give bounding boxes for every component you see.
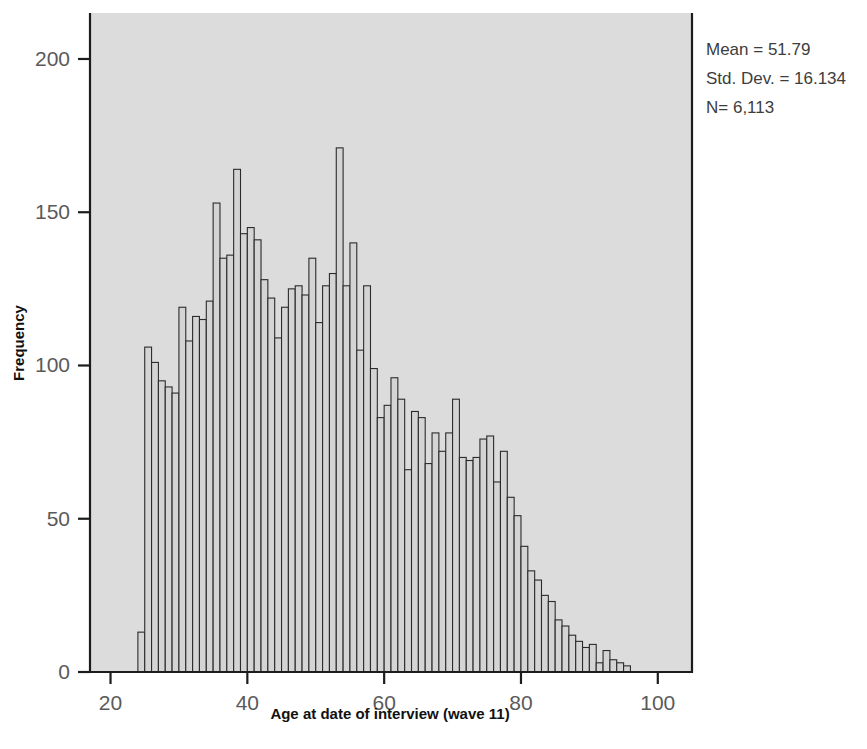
x-tick-label: 20 xyxy=(99,691,122,714)
histogram-bar xyxy=(610,660,617,672)
std-dev-label: Std. Dev. = 16.134 xyxy=(706,69,846,88)
histogram-bar xyxy=(535,580,542,672)
histogram-bar xyxy=(480,439,487,672)
histogram-bar xyxy=(138,632,145,672)
histogram-bar xyxy=(583,647,590,672)
histogram-bar xyxy=(418,418,425,672)
x-tick-label: 100 xyxy=(640,691,675,714)
y-tick-label: 200 xyxy=(35,47,70,70)
histogram-bar xyxy=(254,240,261,672)
histogram-bar xyxy=(213,203,220,672)
histogram-bar xyxy=(603,651,610,672)
histogram-bar xyxy=(473,457,480,672)
histogram-bar xyxy=(528,571,535,672)
histogram-bar xyxy=(350,243,357,672)
y-tick-label: 100 xyxy=(35,353,70,376)
histogram-bar xyxy=(268,298,275,672)
y-tick-label: 150 xyxy=(35,200,70,223)
histogram-bar xyxy=(186,341,193,672)
histogram-bar xyxy=(302,295,309,672)
histogram-bar xyxy=(576,641,583,672)
histogram-bar xyxy=(309,258,316,672)
histogram-bar xyxy=(316,323,323,672)
histogram-bar xyxy=(569,635,576,672)
histogram-bar xyxy=(446,433,453,672)
histogram-bar xyxy=(589,644,596,672)
histogram-bar xyxy=(398,399,405,672)
x-tick-label: 40 xyxy=(236,691,259,714)
histogram-bar xyxy=(453,399,460,672)
histogram-bar xyxy=(152,362,159,672)
mean-label: Mean = 51.79 xyxy=(706,40,810,59)
histogram-bar xyxy=(384,405,391,672)
histogram-bar xyxy=(295,286,302,672)
histogram-bar xyxy=(555,620,562,672)
histogram-bar xyxy=(487,436,494,672)
x-axis-title: Age at date of interview (wave 11) xyxy=(270,705,509,722)
histogram-bar xyxy=(145,347,152,672)
histogram-bar xyxy=(425,464,432,672)
y-tick-label: 0 xyxy=(58,660,70,683)
histogram-bar xyxy=(412,411,419,672)
histogram-bar xyxy=(343,286,350,672)
histogram-bar xyxy=(432,433,439,672)
x-tick-label: 80 xyxy=(509,691,532,714)
histogram-bar xyxy=(193,316,200,672)
histogram-bar xyxy=(247,228,254,672)
histogram-bar xyxy=(323,286,330,672)
histogram-bar xyxy=(405,470,412,672)
histogram-bar xyxy=(500,451,507,672)
histogram-figure: 20406080100 050100150200 Age at date of … xyxy=(0,0,867,749)
histogram-bar xyxy=(206,301,213,672)
histogram-bar xyxy=(275,338,282,672)
histogram-bar xyxy=(521,546,528,672)
histogram-bar xyxy=(514,516,521,672)
histogram-bar xyxy=(391,378,398,672)
histogram-bar xyxy=(165,387,172,672)
sample-size-label: N= 6,113 xyxy=(706,98,774,117)
histogram-bar xyxy=(507,497,514,672)
histogram-bar xyxy=(179,307,186,672)
histogram-bar xyxy=(617,663,624,672)
histogram-bar xyxy=(234,169,241,672)
histogram-bar xyxy=(542,595,549,672)
histogram-bar xyxy=(329,274,336,672)
histogram-bar xyxy=(172,393,179,672)
histogram-bar xyxy=(357,350,364,672)
histogram-bar xyxy=(261,280,268,672)
histogram-bar xyxy=(370,369,377,672)
histogram-bar xyxy=(596,663,603,672)
histogram-bar xyxy=(459,457,466,672)
histogram-bar xyxy=(288,289,295,672)
histogram-bar xyxy=(439,451,446,672)
y-tick-label: 50 xyxy=(47,507,70,530)
histogram-bar xyxy=(199,320,206,672)
histogram-bar xyxy=(364,286,371,672)
histogram-bar xyxy=(377,418,384,672)
histogram-bar xyxy=(282,307,289,672)
y-axis-title: Frequency xyxy=(10,304,27,381)
histogram-bar xyxy=(227,255,234,672)
histogram-bar xyxy=(466,461,473,672)
histogram-bar xyxy=(241,234,248,672)
histogram-bar xyxy=(494,482,501,672)
histogram-bar xyxy=(548,602,555,673)
histogram-bar xyxy=(336,148,343,672)
histogram-bar xyxy=(562,626,569,672)
histogram-bar xyxy=(158,381,165,672)
histogram-bar xyxy=(220,258,227,672)
